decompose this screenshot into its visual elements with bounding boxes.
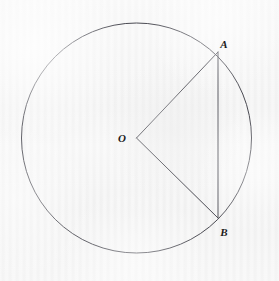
segment-oa-radius	[137, 52, 219, 138]
vertex-label-a: A	[220, 39, 227, 50]
segment-ob-radius	[137, 138, 219, 218]
vertex-label-o: O	[118, 133, 126, 144]
geometry-figure	[0, 0, 279, 281]
figure-canvas: A O B	[0, 0, 279, 281]
vertex-label-b: B	[220, 227, 227, 238]
